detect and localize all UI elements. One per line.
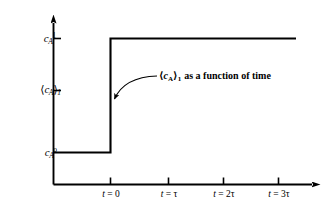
annotation-sub-1: 1 xyxy=(178,75,182,83)
y-label-sup-o: o xyxy=(53,145,57,154)
x-tick-label-t-equals-tau: t = τ xyxy=(149,190,189,200)
x-label-equals: = xyxy=(271,189,281,199)
y-tick-label-averaged-c-A-1: ⟨cA⟩1 xyxy=(40,84,61,97)
curve-annotation-label: ⟨cA⟩1as a function of time xyxy=(159,70,271,83)
x-tick-label-t-equals-2tau: t = 2τ xyxy=(204,190,244,200)
x-label-value: τ xyxy=(173,189,177,199)
x-label-equals: = xyxy=(105,189,115,199)
y-tick-label-c-A-superscript-o: cAo xyxy=(45,146,57,160)
x-label-value: 2τ xyxy=(226,189,235,199)
y-label-sub-1: 1 xyxy=(57,88,61,97)
x-tick-label-t-equals-3tau: t = 3τ xyxy=(259,190,299,200)
x-label-equals: = xyxy=(163,189,173,199)
x-label-value: 3τ xyxy=(281,189,290,199)
x-tick-label-t-equals-0: t = 0 xyxy=(91,190,131,200)
x-label-value: 0 xyxy=(115,189,120,199)
x-label-equals: = xyxy=(216,189,226,199)
y-label-sup-1: 1 xyxy=(52,31,56,40)
annotation-words: as a function of time xyxy=(184,70,271,81)
step-response-curve xyxy=(54,39,297,153)
annotation-arrow xyxy=(115,76,158,99)
y-tick-label-c-A-superscript-1: cA1 xyxy=(44,32,56,46)
figure-container: cA1 ⟨cA⟩1 cAo t = 0 t = τ t = 2τ t = 3τ … xyxy=(0,0,329,212)
